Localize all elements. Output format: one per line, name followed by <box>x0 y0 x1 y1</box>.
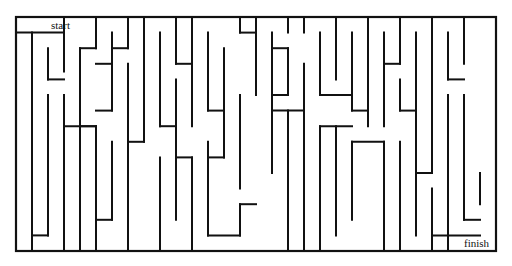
finish-label: finish <box>464 238 489 249</box>
start-label: start <box>51 20 70 31</box>
maze-walls <box>0 0 512 266</box>
maze-puzzle: start finish <box>0 0 512 266</box>
